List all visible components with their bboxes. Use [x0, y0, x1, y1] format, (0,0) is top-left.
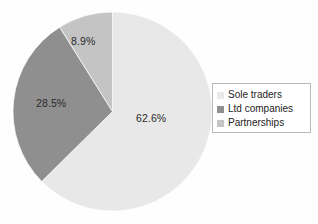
legend-item-ltd-companies[interactable]: Ltd companies: [217, 102, 310, 116]
legend-label-partnerships: Partnerships: [228, 117, 284, 129]
legend-label-ltd-companies: Ltd companies: [228, 103, 293, 115]
chart-legend: Sole traders Ltd companies Partnerships: [212, 83, 311, 133]
pie-chart: 62.6% 28.5% 8.9% Sole traders Ltd compan…: [0, 0, 318, 224]
slice-label-partnerships: 8.9%: [71, 35, 95, 47]
legend-item-sole-traders[interactable]: Sole traders: [217, 88, 310, 102]
legend-item-partnerships[interactable]: Partnerships: [217, 116, 310, 130]
legend-swatch-sole-traders: [217, 92, 224, 99]
legend-swatch-ltd-companies: [217, 106, 224, 113]
slice-label-sole-traders: 62.6%: [136, 112, 166, 124]
slice-label-ltd-companies: 28.5%: [36, 97, 66, 109]
legend-label-sole-traders: Sole traders: [228, 89, 282, 101]
legend-swatch-partnerships: [217, 120, 224, 127]
pie-slice-group: [13, 12, 212, 211]
